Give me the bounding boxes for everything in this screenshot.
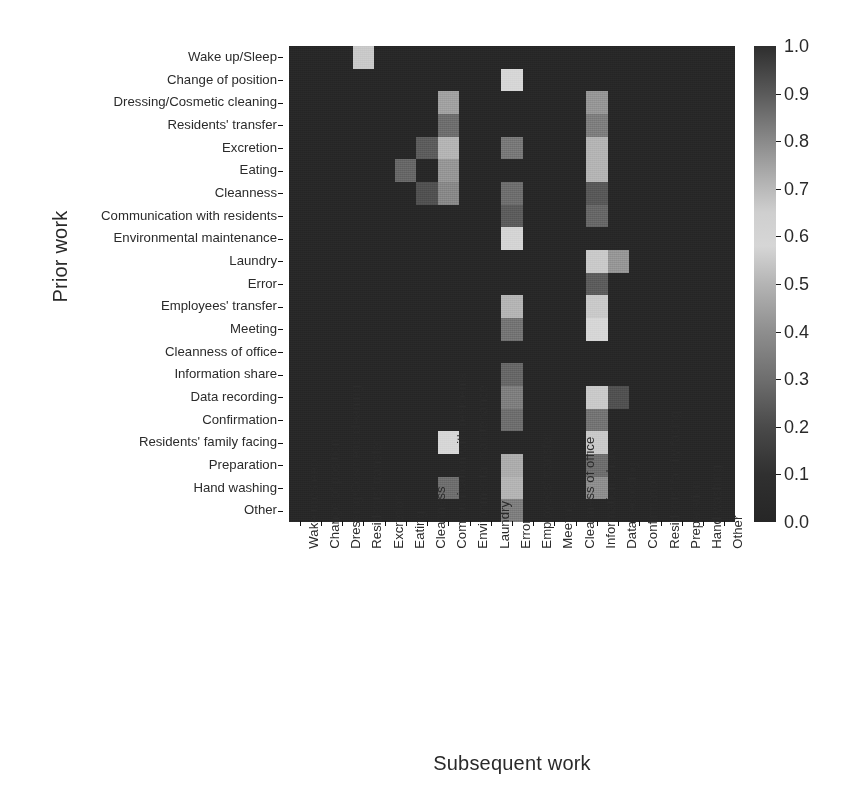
colorbar-tick-mark [776,427,781,428]
heatmap-cell [629,137,650,160]
heatmap-cell [693,431,714,454]
heatmap-cell [374,363,395,386]
heatmap-cell [459,318,480,341]
y-tick-label: Environmental maintenance [114,227,277,250]
heatmap-cell [310,114,331,137]
heatmap-cell [671,227,692,250]
heatmap-cell [353,363,374,386]
heatmap-cell [693,295,714,318]
heatmap-cell [650,205,671,228]
heatmap-cell [289,46,310,69]
heatmap-cell [331,250,352,273]
heatmap-cell [565,318,586,341]
heatmap-cell [438,137,459,160]
heatmap-cell [671,137,692,160]
x-tick-label-wrap: Cleanness of office [565,526,586,736]
x-tick-mark [491,521,492,526]
y-tick-label: Hand washing [193,477,277,500]
x-tick-label-wrap: Employees' transfer [523,526,544,736]
y-tick-mark [278,261,283,262]
heatmap-cell [608,91,629,114]
x-tick-mark [448,521,449,526]
colorbar-tick-label: 0.1 [784,464,809,485]
x-tick-label-wrap: Meeting [544,526,565,736]
heatmap-cell [693,386,714,409]
heatmap-cell [501,477,522,500]
heatmap-cell [586,46,607,69]
heatmap-cell [480,137,501,160]
colorbar-tick-mark [776,141,781,142]
heatmap-cell [501,386,522,409]
heatmap-cell [331,182,352,205]
heatmap-cell [693,182,714,205]
heatmap-cell [565,46,586,69]
heatmap-cell [671,69,692,92]
heatmap-cell [310,137,331,160]
x-axis-title: Subsequent work [289,752,735,775]
heatmap-cell [565,386,586,409]
y-tick-label: Wake up/Sleep [188,46,277,69]
heatmap-cell [523,137,544,160]
heatmap-cell [416,227,437,250]
x-tick-mark [554,521,555,526]
heatmap-cell [693,250,714,273]
y-tick-mark [278,171,283,172]
heatmap-cell [714,137,735,160]
heatmap-cell [650,159,671,182]
heatmap-cell [714,46,735,69]
heatmap-cell [523,363,544,386]
heatmap-cell [416,295,437,318]
heatmap-cell [501,250,522,273]
heatmap-cell [310,341,331,364]
heatmap-cell [650,91,671,114]
heatmap-cell [586,250,607,273]
x-tick-label-wrap: Cleanness [416,526,437,736]
heatmap-cell [416,91,437,114]
heatmap-cell [650,295,671,318]
heatmap-cell [629,273,650,296]
heatmap-cell [501,273,522,296]
heatmap-cell [608,46,629,69]
heatmap-cell [416,250,437,273]
heatmap-cell [629,295,650,318]
y-tick-mark [278,443,283,444]
heatmap-cell [608,69,629,92]
heatmap-cell [480,273,501,296]
heatmap-cell [650,182,671,205]
heatmap-cell [544,182,565,205]
x-tick-mark [427,521,428,526]
heatmap-cell [629,318,650,341]
heatmap-cell [523,273,544,296]
colorbar-tick-label: 0.6 [784,226,809,247]
heatmap-cell [459,250,480,273]
heatmap-cell [629,409,650,432]
heatmap-cell [438,159,459,182]
y-tick-label: Error [248,273,277,296]
heatmap-cell [501,363,522,386]
heatmap-cell [671,159,692,182]
heatmap-cell [289,159,310,182]
colorbar-tick-label: 0.0 [784,512,809,533]
heatmap-cell [374,318,395,341]
x-tick-mark [321,521,322,526]
x-tick-mark [512,521,513,526]
heatmap-cell [544,91,565,114]
y-tick-label: Communication with residents [101,205,277,228]
heatmap-cell [544,205,565,228]
heatmap-cell [310,250,331,273]
y-tick-label: Preparation [209,454,277,477]
heatmap-cell [289,227,310,250]
heatmap-cell [480,46,501,69]
y-tick-label: Cleanness of office [165,341,277,364]
heatmap-cell [374,227,395,250]
heatmap-cell [438,341,459,364]
heatmap-cell [544,227,565,250]
heatmap-cell [629,114,650,137]
heatmap-cell [544,46,565,69]
heatmap-cell [714,227,735,250]
colorbar-tick-mark [776,379,781,380]
heatmap-cell [480,318,501,341]
colorbar-tick-label: 0.7 [784,178,809,199]
heatmap-cell [714,250,735,273]
colorbar-tick-labels: 0.00.10.20.30.40.50.60.70.80.91.0 [776,46,846,522]
